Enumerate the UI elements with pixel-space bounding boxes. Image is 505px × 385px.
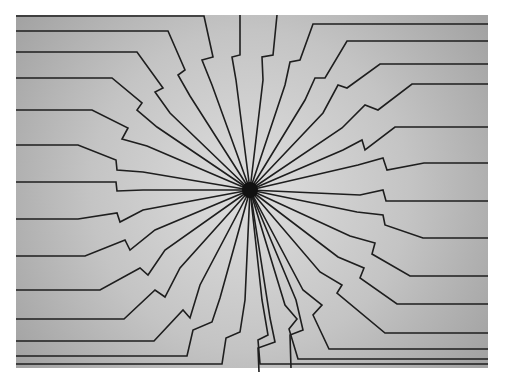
radial-trace-figure [0,0,505,385]
center-hub [242,182,258,198]
